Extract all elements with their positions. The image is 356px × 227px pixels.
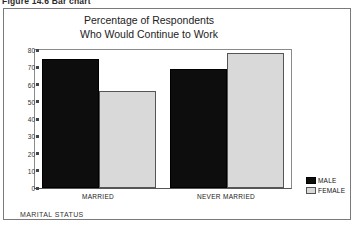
- y-axis-tick-mark: [36, 100, 39, 103]
- legend-item-male: MALE: [306, 177, 345, 184]
- y-axis-tick-mark: [36, 135, 39, 138]
- chart-frame: Percentage of Respondents Who Would Cont…: [3, 8, 351, 220]
- legend-label-female: FEMALE: [318, 187, 345, 194]
- y-axis-tick: 10: [13, 167, 35, 174]
- y-axis-tick-mark: [36, 66, 39, 69]
- y-axis-tick: 20: [13, 150, 35, 157]
- legend-swatch-female: [306, 187, 316, 194]
- chart-title: Percentage of Respondents: [4, 13, 294, 27]
- chart-legend: MALE FEMALE: [306, 177, 345, 197]
- y-axis-tick: 40: [13, 116, 35, 123]
- y-axis-tick: 0: [13, 185, 35, 192]
- legend-label-male: MALE: [318, 177, 337, 184]
- y-axis-tick-mark: [36, 49, 39, 52]
- y-axis-tick-mark: [36, 152, 39, 155]
- chart-title-block: Percentage of Respondents Who Would Cont…: [4, 13, 294, 41]
- y-axis-tick-mark: [36, 169, 39, 172]
- y-axis-tick-mark: [36, 187, 39, 190]
- y-axis-tick: 60: [13, 81, 35, 88]
- chart-subtitle: Who Would Continue to Work: [4, 27, 294, 41]
- y-axis-tick-mark: [36, 118, 39, 121]
- y-axis-tick: 50: [13, 98, 35, 105]
- y-axis-tick: 80: [13, 47, 35, 54]
- bar-never-married-female: [227, 53, 284, 188]
- x-axis-label: MARRIED: [82, 193, 114, 200]
- legend-swatch-male: [306, 177, 316, 184]
- y-axis-tick-mark: [36, 83, 39, 86]
- plot-area: 80706050403020100: [34, 49, 292, 189]
- figure-caption: Figure 14.6 Bar chart: [2, 0, 91, 6]
- bar-married-male: [42, 59, 99, 188]
- bar-container: [35, 50, 291, 188]
- legend-item-female: FEMALE: [306, 187, 345, 194]
- bar-never-married-male: [170, 69, 227, 188]
- y-axis-tick: 70: [13, 64, 35, 71]
- x-axis-title: MARITAL STATUS: [20, 211, 84, 218]
- y-axis-tick: 30: [13, 133, 35, 140]
- x-axis-label: NEVER MARRIED: [197, 193, 255, 200]
- bar-married-female: [99, 91, 156, 188]
